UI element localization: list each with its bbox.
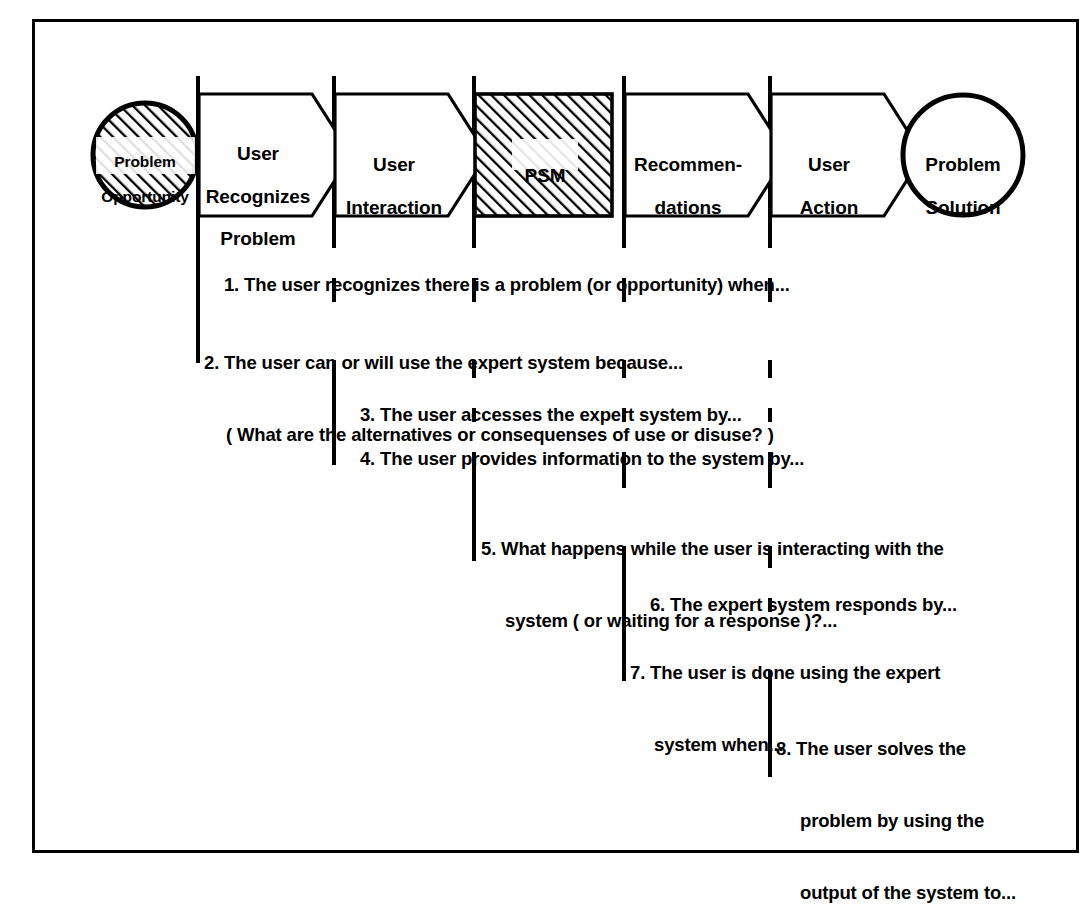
step-item-4: 4. The user provides information to the … (340, 423, 804, 495)
node-user-action (771, 94, 923, 216)
node-psm (475, 94, 612, 216)
step-8-line-2: problem by using the (776, 809, 1016, 833)
step-8-line-1: 8. The user solves the (776, 737, 1016, 761)
node-problem-solution (903, 95, 1023, 215)
step-5-line-1: 5. What happens while the user is intera… (481, 537, 944, 561)
step-1-line-1: 1. The user recognizes there is a proble… (224, 274, 790, 295)
node-user-interaction (335, 94, 487, 216)
node-problem-opportunity (93, 103, 197, 207)
node-recommendations (625, 94, 787, 216)
node-user-recognizes-problem (199, 94, 351, 216)
step-2-line-1: 2. The user can or will use the expert s… (204, 351, 774, 375)
step-6-line-1: 6. The expert system responds by... (650, 594, 957, 615)
step-4-line-1: 4. The user provides information to the … (360, 448, 804, 469)
step-8-line-3: output of the system to... (776, 881, 1016, 905)
step-7-line-1: 7. The user is done using the expert (630, 661, 940, 685)
step-3-line-1: 3. The user accesses the expert system b… (360, 404, 742, 425)
step-item-8: 8. The user solves the problem by using … (776, 689, 1016, 907)
